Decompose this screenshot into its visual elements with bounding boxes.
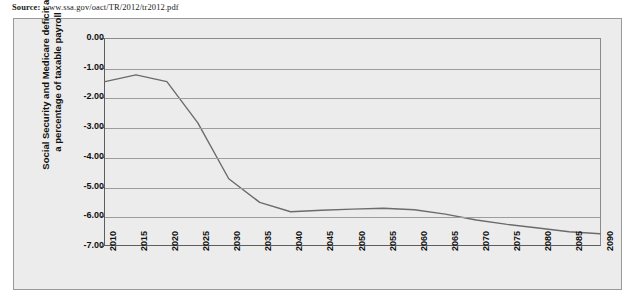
y-tick-mark <box>100 246 104 247</box>
y-axis-ticks: 0.00-1.00-2.00-3.00-4.00-5.00-6.00-7.00 <box>14 38 104 246</box>
chart-figure-frame: Social Security and Medicare deficit as … <box>13 18 622 290</box>
y-tick-label: -2.00 <box>62 91 104 101</box>
x-tick-label: 2085 <box>574 211 584 251</box>
x-tick-label: 2045 <box>325 211 335 251</box>
gridline-y <box>105 188 600 189</box>
gridline-y <box>105 158 600 159</box>
y-tick-label: -6.00 <box>62 210 104 220</box>
y-tick-label: -4.00 <box>62 151 104 161</box>
x-tick-label: 2015 <box>139 211 149 251</box>
x-tick-label: 2080 <box>543 211 553 251</box>
x-tick-label: 2050 <box>357 211 367 251</box>
x-tick-label: 2030 <box>232 211 242 251</box>
x-tick-label: 2025 <box>201 211 211 251</box>
x-tick-label: 2090 <box>605 211 615 251</box>
x-axis-ticks: 2010201520202025203020352040204520502055… <box>104 249 601 291</box>
x-tick-label: 2020 <box>170 211 180 251</box>
y-tick-label: -3.00 <box>62 121 104 131</box>
y-tick-label: -5.00 <box>62 181 104 191</box>
y-tick-label: -1.00 <box>62 62 104 72</box>
gridline-y <box>105 98 600 99</box>
gridline-y <box>105 128 600 129</box>
y-tick-label: -7.00 <box>62 240 104 250</box>
source-citation: Source: www.ssa.gov/oact/TR/2012/tr2012.… <box>12 2 179 12</box>
x-tick-label: 2065 <box>450 211 460 251</box>
x-tick-label: 2010 <box>108 211 118 251</box>
y-tick-label: 0.00 <box>62 32 104 42</box>
x-tick-label: 2060 <box>419 211 429 251</box>
source-label: Source: <box>12 2 40 12</box>
x-tick-label: 2055 <box>388 211 398 251</box>
x-tick-label: 2040 <box>294 211 304 251</box>
x-tick-label: 2075 <box>512 211 522 251</box>
x-tick-label: 2035 <box>263 211 273 251</box>
gridline-y <box>105 69 600 70</box>
x-tick-label: 2070 <box>481 211 491 251</box>
